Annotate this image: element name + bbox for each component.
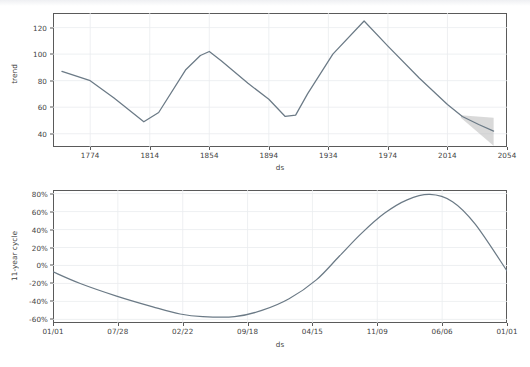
trend-xtick-label: 1814: [140, 151, 159, 160]
cycle-panel: [53, 190, 507, 323]
cycle-ytick-label: 40%: [16, 225, 48, 234]
trend-xaxis-label: ds: [276, 163, 284, 172]
cycle-ytick-mark: [50, 319, 53, 320]
cycle-xtick-mark: [183, 323, 184, 326]
trend-yaxis-label: trend: [10, 64, 19, 84]
cycle-ytick-label: -60%: [16, 315, 48, 324]
trend-ytick-label: 60: [17, 103, 47, 112]
trend-xtick-mark: [90, 147, 91, 150]
figure-top-artifact: [0, 0, 530, 6]
trend-ytick-mark: [50, 54, 53, 55]
cycle-ytick-mark: [50, 247, 53, 248]
cycle-ytick-label: 0%: [16, 261, 48, 270]
cycle-xtick-mark: [53, 323, 54, 326]
trend-xtick-mark: [507, 147, 508, 150]
cycle-xtick-label: 07/28: [107, 327, 128, 336]
cycle-xtick-label: 04/15: [302, 327, 323, 336]
trend-xtick-mark: [209, 147, 210, 150]
cycle-xtick-label: 11/09: [367, 327, 388, 336]
cycle-xtick-mark: [442, 323, 443, 326]
trend-ytick-mark: [50, 27, 53, 28]
cycle-xtick-label: 01/01: [42, 327, 63, 336]
cycle-xtick-label: 06/06: [432, 327, 453, 336]
cycle-ytick-label: -20%: [16, 279, 48, 288]
cycle-xtick-label: 09/18: [237, 327, 258, 336]
cycle-yaxis-label: 11-year cycle: [10, 231, 19, 281]
cycle-plot-canvas: [53, 190, 507, 323]
cycle-ytick-label: -40%: [16, 297, 48, 306]
trend-uncertainty-band: [461, 115, 494, 146]
trend-ytick-label: 120: [17, 23, 47, 32]
cycle-xaxis-label: ds: [276, 340, 284, 349]
cycle-ytick-label: 20%: [16, 243, 48, 252]
trend-ytick-mark: [50, 80, 53, 81]
trend-xtick-label: 1774: [81, 151, 100, 160]
cycle-xtick-mark: [118, 323, 119, 326]
cycle-ytick-mark: [50, 193, 53, 194]
trend-xtick-label: 2054: [498, 151, 517, 160]
cycle-xtick-mark: [248, 323, 249, 326]
trend-ytick-label: 80: [17, 76, 47, 85]
trend-xtick-label: 2014: [438, 151, 457, 160]
trend-line: [62, 21, 494, 131]
cycle-xtick-mark: [377, 323, 378, 326]
trend-xtick-label: 1974: [379, 151, 398, 160]
trend-xtick-mark: [150, 147, 151, 150]
trend-panel: [53, 13, 507, 147]
trend-ytick-label: 40: [17, 129, 47, 138]
trend-ytick-label: 100: [17, 50, 47, 59]
trend-xtick-label: 1934: [319, 151, 338, 160]
cycle-xtick-label: 02/22: [172, 327, 193, 336]
trend-ytick-mark: [50, 133, 53, 134]
cycle-xtick-mark: [507, 323, 508, 326]
cycle-line: [53, 194, 507, 317]
trend-ytick-mark: [50, 107, 53, 108]
cycle-ytick-mark: [50, 265, 53, 266]
cycle-ytick-mark: [50, 229, 53, 230]
cycle-xtick-label: 01/01: [496, 327, 517, 336]
cycle-ytick-label: 80%: [16, 189, 48, 198]
cycle-xtick-mark: [312, 323, 313, 326]
trend-plot-canvas: [53, 13, 507, 147]
trend-xtick-label: 1894: [259, 151, 278, 160]
cycle-ytick-mark: [50, 211, 53, 212]
cycle-ytick-mark: [50, 283, 53, 284]
trend-xtick-mark: [328, 147, 329, 150]
trend-xtick-mark: [269, 147, 270, 150]
cycle-ytick-mark: [50, 301, 53, 302]
trend-xtick-mark: [447, 147, 448, 150]
prophet-components-figure: 4060801001201774181418541894193419742014…: [0, 0, 530, 367]
cycle-ytick-label: 60%: [16, 207, 48, 216]
trend-xtick-label: 1854: [200, 151, 219, 160]
trend-xtick-mark: [388, 147, 389, 150]
